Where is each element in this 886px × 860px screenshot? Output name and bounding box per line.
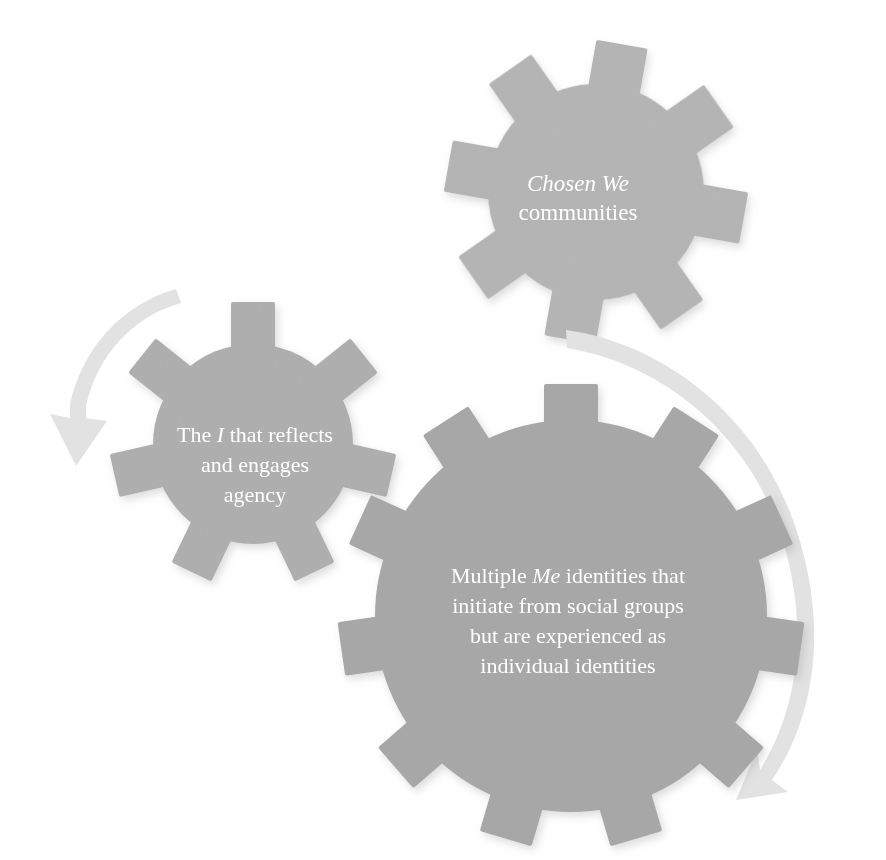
i-agency-line-2: and engages [201, 452, 309, 477]
i-agency-line-3: agency [224, 482, 286, 507]
gears-diagram: Chosen We communities [0, 0, 886, 860]
chosen-we-line-2: communities [519, 200, 638, 225]
multiple-me-line-3: but are experienced as [470, 623, 666, 648]
diagram-canvas: Chosen We communities [0, 0, 886, 860]
multiple-me-line-4: individual identities [480, 653, 655, 678]
i-agency-line-1: The I that reflects [177, 422, 333, 447]
multiple-me-line-1: Multiple Me identities that [451, 563, 685, 588]
multiple-me-line-2: initiate from social groups [452, 593, 684, 618]
chosen-we-line-1: Chosen We [527, 171, 629, 196]
